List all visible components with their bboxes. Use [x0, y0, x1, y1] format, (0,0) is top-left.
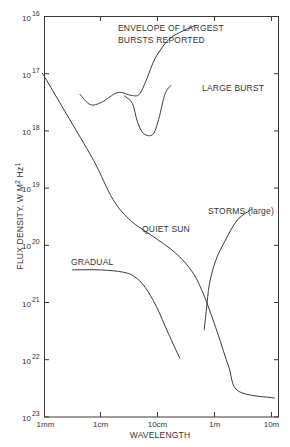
curve-label-large-burst: LARGE BURST [202, 83, 264, 93]
x-tick-label: 1m [209, 420, 220, 429]
curve-label-envelope-of-largest-bursts-reported: BURSTS REPORTED [118, 35, 205, 45]
x-tick-label: 1mm [37, 420, 55, 429]
curve-large-burst [124, 86, 170, 136]
y-tick-label: 1017 [22, 67, 40, 80]
y-tick-label: 1016 [22, 10, 40, 23]
curve-gradual [73, 270, 180, 358]
y-tick-label: 1018 [22, 124, 40, 137]
curve-label-quiet-sun: QUIET SUN [142, 224, 190, 234]
flux-density-chart: 10161017101810191020102110221023 1mm1cm1… [0, 0, 290, 447]
curve-labels: ENVELOPE OF LARGESTBURSTS REPORTEDLARGE … [71, 23, 274, 267]
y-axis-title: FLUX DENSITY, W M2 Hz1 [14, 163, 25, 270]
y-tick-label: 1021 [22, 296, 40, 309]
x-tick-label: 1cm [93, 420, 108, 429]
plot-frame [45, 17, 279, 418]
y-tick-label: 1022 [22, 353, 40, 366]
x-axis-title: WAVELENGTH [130, 430, 191, 440]
curve-label-gradual: GRADUAL [71, 257, 114, 267]
x-tick-label: 10cm [148, 420, 168, 429]
axis-ticks [45, 17, 279, 418]
curve-label-storms-large: STORMS (large) [208, 206, 274, 216]
curve-storms-large [204, 209, 251, 329]
curve-label-envelope-of-largest-bursts-reported: ENVELOPE OF LARGEST [118, 23, 224, 33]
x-tick-label: 10m [264, 420, 280, 429]
x-tick-labels: 1mm1cm10cm1m10m [37, 420, 280, 429]
